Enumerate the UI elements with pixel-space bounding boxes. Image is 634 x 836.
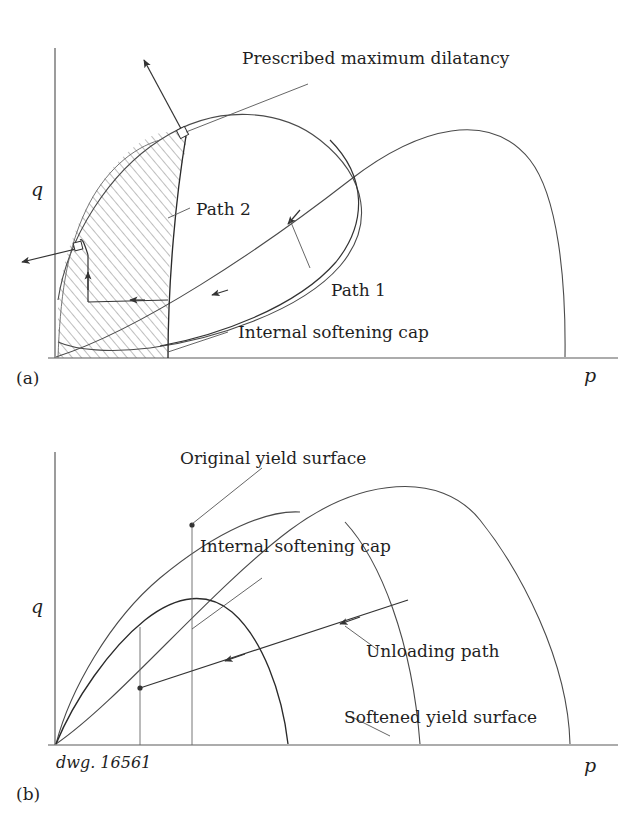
- panel-b-unloading-arrow-upper: [340, 617, 360, 624]
- panel-a-path-1-arrow-lower: [212, 290, 228, 295]
- panel-a-label-path2: Path 2: [196, 199, 251, 219]
- panel-b-label-softening-cap: Internal softening cap: [200, 536, 391, 556]
- panel-b-label-original-surface: Original yield surface: [180, 448, 366, 468]
- panel-a-label-path1: Path 1: [331, 280, 386, 300]
- panel-b-label: (b): [16, 784, 40, 804]
- panel-b-softened-yield-surface: [56, 599, 288, 744]
- panel-b-leader-original-surface: [192, 468, 262, 524]
- panel-b-leader-softening-cap: [192, 578, 262, 629]
- panel-b-point-original: [189, 522, 194, 527]
- panel-a-q-axis-label: q: [31, 178, 43, 200]
- panel-a-dilatancy-arrow-upper: [144, 60, 186, 138]
- panel-b-unloading-arrow-lower: [225, 654, 245, 661]
- panel-b-p-axis-label: p: [584, 754, 596, 776]
- panel-a: Prescribed maximum dilatancy Path 2 Path…: [16, 48, 618, 388]
- panel-a-path-1: [160, 140, 359, 346]
- panel-b-label-softened-surface: Softened yield surface: [344, 707, 537, 727]
- panel-b-drawing-number: dwg. 16561: [56, 753, 151, 772]
- panel-b-label-unloading-path: Unloading path: [366, 641, 499, 661]
- panel-a-p-axis-label: p: [584, 364, 596, 386]
- panel-a-dilatancy-marker-lower: [73, 241, 83, 251]
- figure-root: Prescribed maximum dilatancy Path 2 Path…: [0, 0, 634, 836]
- panel-a-label-softening-cap: Internal softening cap: [238, 322, 429, 342]
- panel-a-label: (a): [16, 368, 39, 388]
- panel-b-q-axis-label: q: [31, 595, 43, 617]
- panel-a-leader-dilatancy: [186, 84, 308, 132]
- panel-a-leader-path1: [290, 220, 310, 268]
- panel-b-original-yield-surface: [56, 486, 570, 744]
- panel-b: Original yield surface Internal softenin…: [16, 448, 618, 804]
- diagram-canvas: Prescribed maximum dilatancy Path 2 Path…: [0, 0, 634, 836]
- panel-a-label-dilatancy: Prescribed maximum dilatancy: [242, 48, 510, 68]
